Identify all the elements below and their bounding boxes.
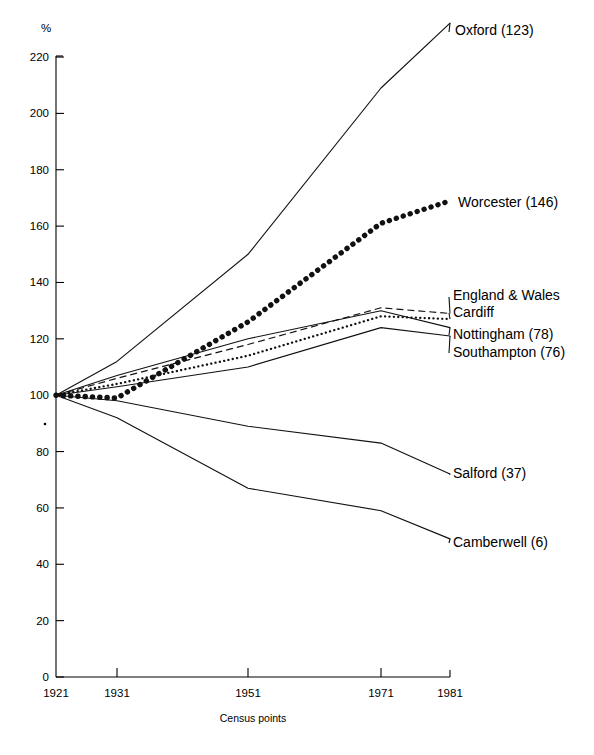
series-labels: Oxford (123)Worcester (146)England & Wal… [453, 22, 565, 550]
label-leader-lines [449, 23, 450, 543]
leader-line [449, 539, 450, 543]
y-axis-tick-labels: 020406080100120140160180200220 [30, 51, 49, 683]
leader-line [449, 313, 450, 319]
leader-line [449, 328, 450, 335]
y-tick-label: 0 [43, 671, 49, 683]
series-label: Worcester (146) [458, 194, 558, 210]
chart-root: % 020406080100120140160180200220 1921193… [0, 0, 594, 755]
y-tick-label: 200 [30, 107, 49, 119]
y-tick-label: 20 [36, 615, 49, 627]
series-line [56, 201, 450, 398]
y-tick-label: 140 [30, 276, 49, 288]
series-label: England & Wales [453, 287, 560, 303]
x-axis-ticks [117, 668, 381, 677]
y-tick-label: 80 [36, 446, 49, 458]
y-tick-label: 100 [30, 389, 49, 401]
series-line [56, 395, 450, 474]
series-line [56, 308, 450, 395]
series-label: Cardiff [453, 304, 494, 320]
x-tick-label: 1931 [104, 687, 130, 699]
y-tick-label: 120 [30, 333, 49, 345]
y-tick-label: 160 [30, 220, 49, 232]
series-label: Camberwell (6) [453, 534, 548, 550]
series-line [56, 23, 450, 395]
x-tick-label: 1971 [368, 687, 394, 699]
line-chart: % 020406080100120140160180200220 1921193… [0, 0, 594, 755]
x-tick-label: 1921 [43, 687, 69, 699]
y-tick-label: 180 [30, 164, 49, 176]
data-series-group [56, 23, 450, 539]
x-tick-label: 1981 [437, 687, 463, 699]
series-line [56, 316, 450, 395]
x-axis-tick-labels: 19211931195119711981 [43, 687, 463, 699]
leader-line [449, 336, 450, 353]
stray-mark [44, 423, 47, 426]
y-tick-label: 60 [36, 502, 49, 514]
series-label: Salford (37) [453, 465, 526, 481]
leader-line [449, 297, 450, 314]
y-axis-ticks [56, 57, 64, 677]
y-tick-label: 220 [30, 51, 49, 63]
series-label: Oxford (123) [455, 22, 534, 38]
x-tick-label: 1951 [235, 687, 261, 699]
y-axis-unit-label: % [41, 22, 51, 34]
series-label: Nottingham (78) [453, 326, 553, 342]
series-line [56, 395, 450, 539]
series-label: Southampton (76) [453, 344, 565, 360]
series-line [56, 311, 450, 396]
y-tick-label: 40 [36, 558, 49, 570]
axes [56, 56, 450, 677]
x-axis-title: Census points [220, 712, 287, 724]
